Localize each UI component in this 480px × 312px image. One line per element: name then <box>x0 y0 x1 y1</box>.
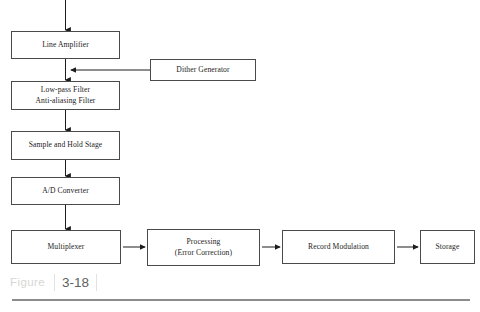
figure-caption-number: 3-18 <box>55 275 96 290</box>
block-ad-converter: A/D Converter <box>11 177 120 205</box>
block-label-line-2: (Error Correction) <box>175 248 232 259</box>
block-label-line-1: Low-pass Filter <box>41 85 90 96</box>
block-lowpass-antialiasing-filter: Low-pass Filter Anti-aliasing Filter <box>11 81 120 110</box>
block-storage: Storage <box>420 230 475 264</box>
block-label-line-1: Processing <box>187 237 221 248</box>
block-label: Storage <box>436 242 460 253</box>
block-multiplexer: Multiplexer <box>11 230 121 264</box>
block-label: Record Modulation <box>308 242 369 253</box>
block-label-line-2: Anti-aliasing Filter <box>36 96 96 107</box>
figure-caption-word: Figure <box>10 276 54 288</box>
figure-caption-rule <box>12 299 470 301</box>
figure-caption: Figure 3-18 <box>10 272 97 292</box>
block-record-modulation: Record Modulation <box>282 230 395 264</box>
block-sample-and-hold-stage: Sample and Hold Stage <box>11 131 120 160</box>
block-label: A/D Converter <box>42 186 89 197</box>
block-label: Sample and Hold Stage <box>29 140 103 151</box>
block-line-amplifier: Line Amplifier <box>11 31 120 59</box>
figure-caption-divider-right <box>96 274 97 291</box>
block-label: Multiplexer <box>48 242 85 253</box>
figure-diagram-canvas: Line Amplifier Dither Generator Low-pass… <box>0 0 480 312</box>
block-label: Line Amplifier <box>42 40 89 51</box>
block-processing-error-correction: Processing (Error Correction) <box>147 229 260 266</box>
block-label: Dither Generator <box>176 65 229 76</box>
block-dither-generator: Dither Generator <box>150 59 256 81</box>
